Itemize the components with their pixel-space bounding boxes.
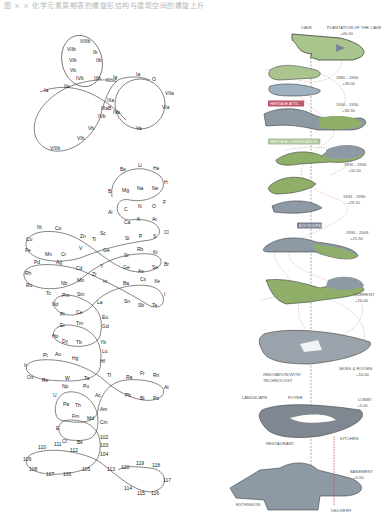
- level-label-kitchen: KITCHEN: [340, 436, 358, 441]
- element-label: 114: [124, 485, 132, 491]
- element-label: Fr: [140, 370, 145, 376]
- element-label: Tb: [76, 339, 82, 345]
- element-label: Cl: [164, 229, 169, 235]
- element-label: K: [137, 216, 141, 222]
- element-label: Gd: [102, 323, 109, 329]
- element-label: Sm: [77, 291, 85, 297]
- element-label: Tl: [107, 372, 111, 378]
- element-label: Er: [60, 322, 65, 328]
- level-label-l3: 1930 - 1945: [344, 162, 367, 167]
- element-label: Zr: [92, 271, 97, 277]
- group-label: Va: [136, 125, 142, 131]
- element-label: 111: [54, 441, 62, 447]
- element-label: Hf: [100, 358, 106, 364]
- element-label: Am: [100, 406, 108, 412]
- element-label: Rb: [137, 246, 144, 252]
- element-label: Ni: [37, 224, 42, 230]
- element-label: Sr: [124, 252, 129, 258]
- level-label-extension: EXTENSION: [236, 502, 260, 507]
- element-label: Sc: [100, 230, 106, 236]
- group-label: VIIIb: [50, 145, 61, 151]
- group-label: Ib: [93, 49, 97, 55]
- element-label: Eu: [102, 314, 108, 320]
- element-label: Th: [75, 402, 81, 408]
- group-label: IVb: [76, 75, 84, 81]
- element-label: Ca: [124, 219, 131, 225]
- element-label: Fe: [25, 247, 31, 253]
- element-label: Ar: [152, 216, 157, 222]
- element-label: 105: [82, 466, 91, 472]
- element-label: Ru: [26, 282, 33, 288]
- element-label: Kr: [153, 249, 158, 255]
- element-label: Sn: [124, 298, 130, 304]
- level-elevation-basement: +0.00: [353, 475, 364, 480]
- group-label: VIb: [77, 135, 85, 141]
- group-label: IVb: [98, 113, 106, 119]
- element-label: Sb: [138, 302, 144, 308]
- element-label: 120: [121, 464, 130, 470]
- element-label: Pm: [62, 292, 70, 298]
- element-label: Bi: [140, 395, 144, 401]
- element-label: V: [79, 245, 83, 251]
- element-label: C: [124, 206, 128, 212]
- group-label: VIa: [162, 104, 170, 110]
- element-label: Mo: [77, 277, 84, 283]
- element-label: Co: [55, 225, 62, 231]
- element-label: Pr: [60, 311, 65, 317]
- element-label: Ge: [103, 247, 110, 253]
- figure-canvas: VIIIbVIIbIbVIbIIbVbIVbIIIbIIIb/cIaIaOIIa…: [0, 0, 390, 528]
- element-label: 113: [107, 466, 115, 472]
- element-label: 110: [38, 444, 46, 450]
- level-elevation-l1: +39.00: [342, 81, 356, 86]
- element-label: Re: [42, 377, 49, 383]
- element-label: Pb: [125, 392, 131, 398]
- element-label: Bk: [77, 439, 83, 445]
- element-label: Dy: [62, 338, 69, 344]
- level-elevation-plantation: +40.00: [340, 31, 354, 36]
- group-label: IIIa: [107, 97, 114, 103]
- element-label: 104: [100, 451, 109, 457]
- element-label: Md: [87, 415, 94, 421]
- group-label: Ia: [136, 71, 140, 77]
- element-label: 112: [70, 447, 78, 453]
- element-label: Be: [120, 166, 126, 172]
- level-1880-grey: [269, 84, 320, 96]
- element-label: 119: [136, 460, 144, 466]
- level-1880: [269, 65, 321, 80]
- element-label: W: [65, 375, 70, 381]
- element-label: Ag: [56, 259, 62, 265]
- element-label: U: [53, 392, 57, 398]
- element-label: 102: [100, 434, 109, 440]
- level-label-l2: 1900 - 1930: [336, 102, 359, 107]
- element-label: Tc: [46, 290, 52, 296]
- level-cave: [292, 34, 364, 60]
- level-label-landscape: LANDSCAPE: [242, 395, 268, 400]
- element-label: Cu: [26, 236, 33, 242]
- element-label: Cr: [61, 251, 67, 257]
- level-label-restaurant: RESTAURANT: [266, 441, 295, 446]
- level-label-lobby: LOBBY: [358, 397, 372, 402]
- element-label: 106: [63, 471, 72, 477]
- tag-label: HERITAGE CONSERVATION: [270, 140, 318, 144]
- element-label: Rh: [25, 270, 32, 276]
- element-label: Ir: [24, 362, 27, 368]
- group-label: IVa: [113, 109, 120, 115]
- level-label-skies: SKIES & ROOMS: [339, 366, 372, 371]
- element-label: Y: [100, 263, 104, 269]
- element-label: In: [103, 278, 107, 284]
- element-label: Br: [164, 261, 169, 267]
- element-label: Ra: [126, 374, 133, 380]
- element-label: Cd: [76, 265, 83, 271]
- group-label: Vb: [88, 125, 94, 131]
- element-label: 115: [137, 490, 145, 496]
- periodic-loop-top-labels: VIIIbVIIbIbVIbIIbVbIVbIIIbIIIb/cIaIaOIIa…: [44, 38, 174, 151]
- element-label: Ne: [152, 185, 159, 191]
- element-label: Cm: [100, 419, 108, 425]
- element-label: Au: [55, 351, 61, 357]
- level-elevation-l3: +32.00: [348, 168, 362, 173]
- element-label: 108: [29, 466, 38, 472]
- tag-label: ECO ROOFS: [299, 224, 321, 228]
- element-label: Zn: [80, 233, 86, 239]
- group-label: VIIb: [67, 46, 76, 52]
- element-label: Os: [27, 374, 34, 380]
